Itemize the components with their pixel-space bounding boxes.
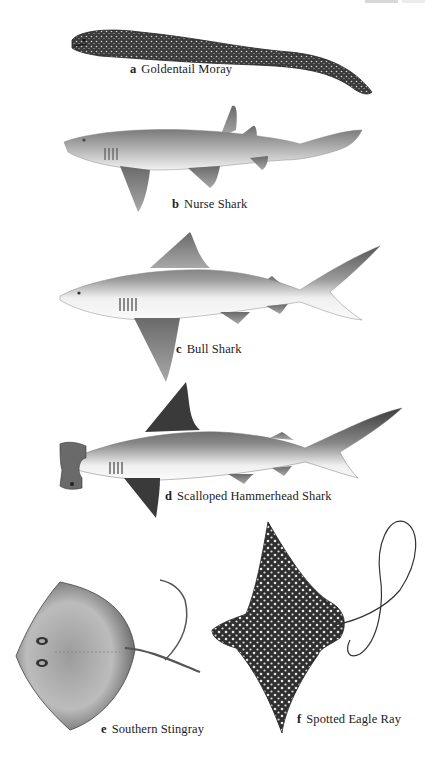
caption-southern-stingray: eSouthern Stingray xyxy=(101,722,204,737)
caption-scalloped-hammerhead: dScalloped Hammerhead Shark xyxy=(165,489,332,504)
caption-spotted-eagle-ray: fSpotted Eagle Ray xyxy=(297,712,401,727)
plate-illustrations xyxy=(0,0,441,761)
figure-name: Nurse Shark xyxy=(184,197,247,211)
figure-name: Bull Shark xyxy=(187,342,242,356)
figure-letter: e xyxy=(101,722,107,736)
bull-shark-illustration xyxy=(60,232,380,382)
illustration-plate: aGoldentail Moray bNurse Shark cBull Sha… xyxy=(0,0,441,761)
figure-name: Southern Stingray xyxy=(112,722,204,736)
figure-name: Scalloped Hammerhead Shark xyxy=(177,489,332,503)
southern-stingray-illustration xyxy=(16,580,200,730)
caption-nurse-shark: bNurse Shark xyxy=(172,197,247,212)
figure-letter: f xyxy=(297,712,301,726)
figure-letter: c xyxy=(176,342,182,356)
caption-bull-shark: cBull Shark xyxy=(176,342,241,357)
figure-letter: b xyxy=(172,197,179,211)
spotted-eagle-ray-illustration xyxy=(212,521,416,733)
caption-goldentail-moray: aGoldentail Moray xyxy=(130,62,232,77)
figure-letter: d xyxy=(165,489,172,503)
figure-name: Goldentail Moray xyxy=(141,62,232,76)
figure-name: Spotted Eagle Ray xyxy=(306,712,401,726)
figure-letter: a xyxy=(130,62,136,76)
